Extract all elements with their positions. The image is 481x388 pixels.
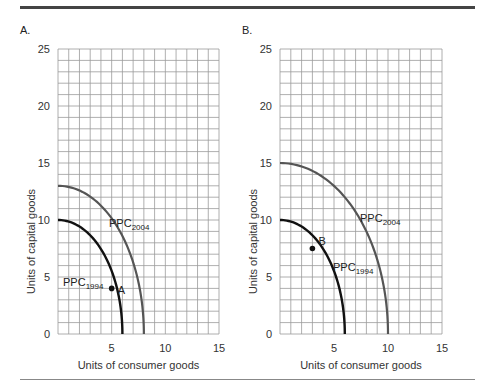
chart-panel-a: 051015202551015Units of consumer goodsUn… [25, 43, 225, 371]
y-tick-label: 0 [266, 328, 272, 340]
y-tick-label: 10 [38, 214, 50, 226]
y-tick-label: 5 [266, 271, 272, 283]
x-tick-label: 5 [331, 342, 337, 354]
grid [280, 49, 442, 334]
x-tick-label: 15 [213, 342, 225, 354]
y-axis-label: Units of capital goods [25, 188, 37, 294]
x-axis-label: Units of consumer goods [78, 359, 200, 371]
x-tick-label: 5 [109, 342, 115, 354]
x-axis-label: Units of consumer goods [300, 359, 422, 371]
x-tick-label: 10 [382, 342, 394, 354]
ppc1994-label: PPC1994 [333, 261, 374, 276]
y-tick-label: 15 [260, 157, 272, 169]
point-b-label: B [318, 235, 325, 247]
point-b-marker [310, 246, 316, 252]
chart-panel-b: 051015202551015Units of consumer goodsUn… [247, 43, 448, 371]
y-tick-label: 15 [38, 157, 50, 169]
x-tick-label: 10 [159, 342, 171, 354]
y-tick-label: 25 [38, 43, 50, 55]
y-axis-label: Units of capital goods [247, 188, 259, 294]
y-tick-label: 25 [260, 43, 272, 55]
x-tick-label: 15 [436, 342, 448, 354]
y-tick-label: 20 [38, 100, 50, 112]
y-tick-label: 20 [260, 100, 272, 112]
y-tick-label: 10 [260, 214, 272, 226]
point-a-marker [109, 286, 115, 292]
y-tick-label: 0 [44, 328, 50, 340]
point-a-label: A [118, 284, 126, 296]
y-tick-label: 5 [44, 271, 50, 283]
ppc-charts: 051015202551015Units of consumer goodsUn… [0, 0, 481, 388]
